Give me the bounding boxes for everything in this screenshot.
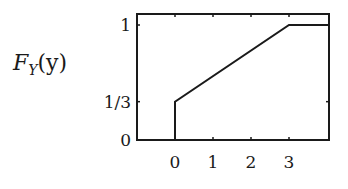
axis-ticks bbox=[137, 14, 329, 140]
series-group bbox=[137, 25, 329, 140]
x-tick-label: 3 bbox=[284, 152, 295, 172]
svg-text:FY(y): FY(y) bbox=[12, 50, 67, 78]
y-axis-label: FY(y) bbox=[12, 50, 67, 78]
x-tick-labels: 0123 bbox=[170, 152, 295, 172]
x-tick-label: 0 bbox=[170, 152, 181, 172]
y-tick-label: 1 bbox=[120, 15, 131, 35]
plot-frame bbox=[137, 14, 329, 140]
cdf-series-line bbox=[137, 25, 329, 140]
x-tick-label: 1 bbox=[208, 152, 219, 172]
x-tick-label: 2 bbox=[246, 152, 257, 172]
y-tick-label: 1/3 bbox=[104, 92, 131, 112]
y-axis-label-arg: (y) bbox=[38, 50, 68, 75]
y-tick-label: 0 bbox=[120, 130, 131, 150]
cdf-chart: FY(y) 0123 01/31 bbox=[0, 0, 348, 189]
y-axis-label-main: F bbox=[12, 50, 29, 75]
y-tick-labels: 01/31 bbox=[104, 15, 131, 150]
